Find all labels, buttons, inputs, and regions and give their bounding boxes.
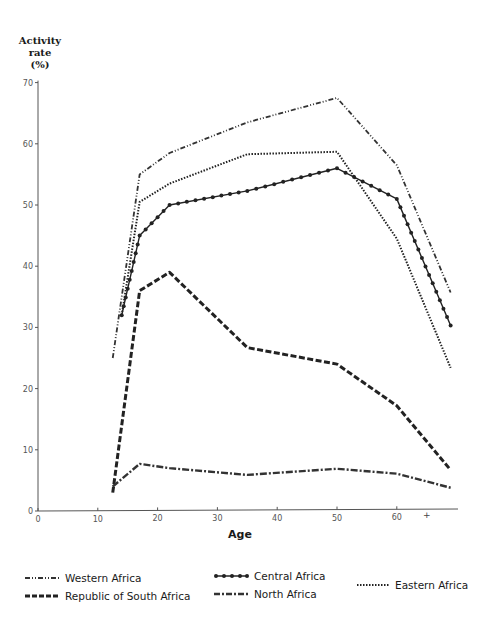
y-tick-label: 30 (23, 323, 33, 332)
series-marker-central-africa (237, 190, 241, 194)
series-marker-central-africa (228, 192, 232, 196)
series-line-republic-of-south-africa (113, 272, 451, 492)
series-marker-central-africa (378, 188, 382, 192)
legend-item-western-africa: Western Africa (24, 572, 141, 584)
legend-swatch-eastern-africa (356, 582, 390, 588)
series-marker-central-africa (138, 234, 142, 238)
series-marker-central-africa (211, 195, 215, 199)
legend-swatch-western-africa (24, 575, 60, 581)
series-marker-central-africa (369, 184, 373, 188)
series-marker-central-africa (402, 214, 406, 218)
series-marker-central-africa (254, 187, 258, 191)
series-marker-central-africa (335, 166, 339, 170)
x-axis-label: Age (228, 528, 252, 541)
series-marker-central-africa (245, 189, 249, 193)
series-marker-central-africa (445, 315, 449, 319)
x-axis-line (38, 509, 458, 511)
series-marker-central-africa (185, 200, 189, 204)
y-tick-label: 0 (28, 507, 33, 516)
series-marker-central-africa (281, 180, 285, 184)
series-marker-central-africa (424, 264, 428, 268)
x-tick-label: 10 (93, 515, 103, 524)
y-tick-label: 10 (23, 446, 33, 455)
series-marker-central-africa (395, 197, 399, 201)
series-marker-central-africa (263, 184, 267, 188)
series-marker-central-africa (434, 290, 438, 294)
series-marker-central-africa (441, 307, 445, 311)
series-marker-central-africa (406, 222, 410, 226)
series-marker-central-africa (317, 171, 321, 175)
series-marker-central-africa (438, 298, 442, 302)
legend-item-eastern-africa: Eastern Africa (356, 579, 468, 591)
y-tick-label: 20 (23, 385, 33, 394)
series-marker-central-africa (308, 173, 312, 177)
series-marker-central-africa (431, 281, 435, 285)
legend-label-north-africa: North Africa (254, 588, 317, 600)
series-marker-central-africa (427, 273, 431, 277)
y-tick-label: 40 (23, 262, 33, 271)
y-tick-label: 60 (23, 140, 33, 149)
series-marker-central-africa (176, 201, 180, 205)
legend-swatch-north-africa (213, 591, 249, 597)
series-marker-central-africa (420, 256, 424, 260)
series-marker-central-africa (409, 231, 413, 235)
legend-label-republic-of-south-africa: Republic of South Africa (65, 590, 190, 602)
legend-item-central-africa: Central Africa (213, 570, 326, 582)
series-marker-central-africa (413, 239, 417, 243)
x-extra-mark: + (423, 510, 431, 520)
series-line-eastern-africa (122, 152, 451, 368)
x-tick-label: 0 (35, 515, 40, 524)
legend-item-republic-of-south-africa: Republic of South Africa (24, 590, 190, 602)
x-tick-label: 60 (392, 513, 402, 522)
series-marker-central-africa (290, 178, 294, 182)
series-line-north-africa (113, 464, 451, 488)
series-marker-central-africa (272, 182, 276, 186)
series-marker-central-africa (134, 251, 138, 255)
series-marker-central-africa (398, 205, 402, 209)
series-marker-central-africa (144, 227, 148, 231)
x-tick-label: 20 (153, 514, 163, 523)
series-line-central-africa (122, 168, 451, 325)
series-marker-central-africa (168, 203, 172, 207)
series-marker-central-africa (219, 194, 223, 198)
series-marker-central-africa (130, 269, 134, 273)
series-marker-central-africa (193, 198, 197, 202)
series-marker-central-africa (361, 179, 365, 183)
legend-label-central-africa: Central Africa (254, 570, 326, 582)
series-layer (113, 98, 453, 493)
x-tick-label: 50 (332, 514, 342, 523)
y-tick-label: 70 (23, 79, 33, 88)
legend-swatch-central-africa (213, 572, 249, 580)
x-tick-label: 30 (212, 514, 222, 523)
series-marker-central-africa (202, 197, 206, 201)
series-marker-central-africa (136, 242, 140, 246)
series-marker-central-africa (156, 215, 160, 219)
series-marker-central-africa (132, 260, 136, 264)
axes: 0102030405060700102030405060+ (23, 79, 458, 524)
series-marker-central-africa (150, 221, 154, 225)
series-marker-central-africa (386, 193, 390, 197)
series-marker-central-africa (299, 175, 303, 179)
legend-item-north-africa: North Africa (213, 588, 317, 600)
y-tick-label: 50 (23, 201, 33, 210)
series-marker-central-africa (416, 248, 420, 252)
series-marker-central-africa (344, 171, 348, 175)
series-marker-central-africa (326, 169, 330, 173)
legend-label-western-africa: Western Africa (65, 572, 141, 584)
legend-label-eastern-africa: Eastern Africa (395, 579, 468, 591)
series-marker-central-africa (449, 324, 453, 328)
series-line-western-africa (113, 98, 451, 358)
x-tick-label: 40 (272, 514, 282, 523)
legend-swatch-republic-of-south-africa (24, 593, 60, 599)
series-marker-central-africa (162, 209, 166, 213)
